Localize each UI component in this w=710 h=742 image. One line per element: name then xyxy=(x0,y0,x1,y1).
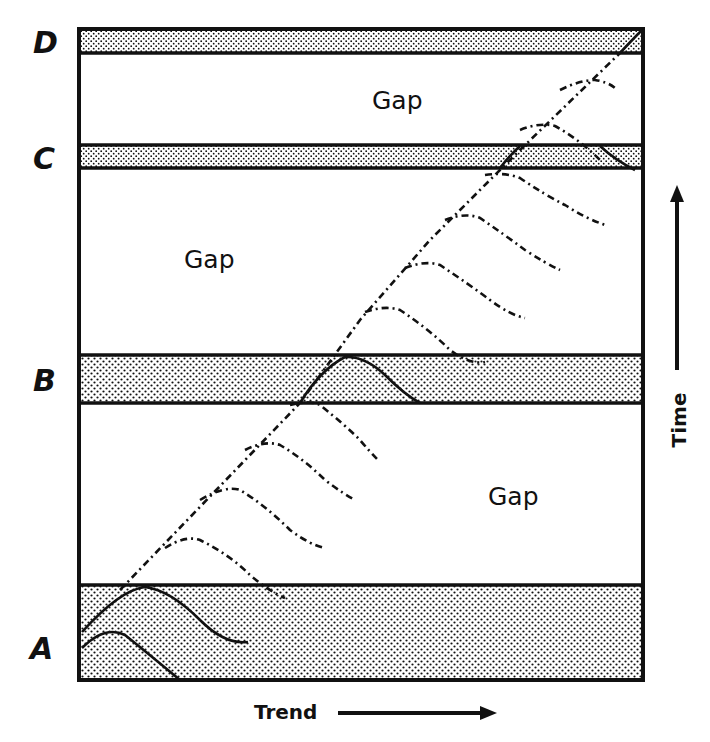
dashed-curves xyxy=(120,53,620,598)
stratigraphic-trend-diagram xyxy=(0,0,710,742)
gap-label-cd: Gap xyxy=(372,88,423,113)
trend-arrow xyxy=(338,706,497,720)
horizon-label-a: A xyxy=(30,634,53,664)
horizon-band-c xyxy=(80,146,642,168)
horizon-band-b xyxy=(80,355,642,403)
gap-label-bc: Gap xyxy=(184,247,235,272)
gap-label-ab: Gap xyxy=(488,484,539,509)
horizon-band-d xyxy=(80,30,642,52)
horizon-label-d: D xyxy=(33,28,58,58)
horizon-label-b: B xyxy=(33,366,56,396)
time-axis-label: Time xyxy=(669,393,689,448)
horizon-label-c: C xyxy=(33,144,55,174)
time-arrow xyxy=(670,185,684,370)
trend-axis-label: Trend xyxy=(254,702,317,722)
